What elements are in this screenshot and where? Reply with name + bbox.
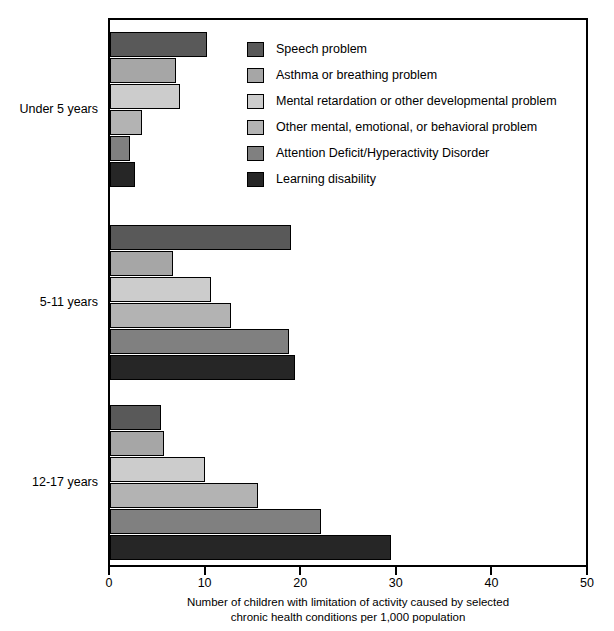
bar <box>110 84 180 109</box>
legend: Speech problemAsthma or breathing proble… <box>247 36 577 192</box>
x-axis-title: Number of children with limitation of ac… <box>108 595 588 625</box>
legend-item-label: Mental retardation or other developmenta… <box>276 94 557 108</box>
bar <box>110 136 130 161</box>
legend-swatch-icon <box>247 42 264 57</box>
bar <box>110 225 291 250</box>
legend-item-label: Attention Deficit/Hyperactivity Disorder <box>276 146 489 160</box>
y-axis-group-labels: Under 5 years5-11 years12-17 years <box>0 0 104 631</box>
x-axis-title-line-1: Number of children with limitation of ac… <box>108 595 588 610</box>
bar <box>110 457 205 482</box>
bar <box>110 162 135 187</box>
bar <box>110 329 289 354</box>
x-axis-tick <box>586 567 588 575</box>
legend-swatch-icon <box>247 146 264 161</box>
x-axis-tick-label: 30 <box>389 576 403 590</box>
legend-item-label: Asthma or breathing problem <box>276 68 437 82</box>
bar <box>110 405 161 430</box>
legend-item: Other mental, emotional, or behavioral p… <box>247 114 577 140</box>
legend-item-label: Other mental, emotional, or behavioral p… <box>276 120 537 134</box>
x-axis-tick-label: 0 <box>106 576 113 590</box>
clipped-title-fragment <box>93 0 353 1</box>
x-axis-tick-label: 40 <box>484 576 498 590</box>
legend-item: Attention Deficit/Hyperactivity Disorder <box>247 140 577 166</box>
legend-item: Speech problem <box>247 36 577 62</box>
bar <box>110 277 211 302</box>
bar <box>110 32 207 57</box>
y-axis-group-label: 12-17 years <box>32 475 98 489</box>
legend-swatch-icon <box>247 120 264 135</box>
bar <box>110 251 173 276</box>
bar <box>110 58 176 83</box>
x-axis-title-line-2: chronic health conditions per 1,000 popu… <box>108 610 588 625</box>
bar <box>110 110 142 135</box>
bar <box>110 483 258 508</box>
x-axis-tick <box>395 567 397 575</box>
x-axis-tick <box>490 567 492 575</box>
x-axis-tick-label: 20 <box>293 576 307 590</box>
x-axis-tick-label: 50 <box>580 576 594 590</box>
x-axis-tick <box>108 567 110 575</box>
x-axis-tick-label: 10 <box>198 576 212 590</box>
bar-chart: Under 5 years5-11 years12-17 years 01020… <box>0 0 614 631</box>
legend-swatch-icon <box>247 94 264 109</box>
legend-item-label: Learning disability <box>276 172 376 186</box>
legend-item: Mental retardation or other developmenta… <box>247 88 577 114</box>
bar <box>110 431 164 456</box>
legend-swatch-icon <box>247 172 264 187</box>
bar <box>110 509 321 534</box>
bar <box>110 535 391 560</box>
x-axis-tick <box>204 567 206 575</box>
legend-item: Asthma or breathing problem <box>247 62 577 88</box>
bar <box>110 355 295 380</box>
legend-swatch-icon <box>247 68 264 83</box>
legend-item: Learning disability <box>247 166 577 192</box>
y-axis-group-label: 5-11 years <box>40 295 98 309</box>
x-axis-tick <box>299 567 301 575</box>
bar <box>110 303 231 328</box>
y-axis-group-label: Under 5 years <box>19 102 98 116</box>
legend-item-label: Speech problem <box>276 42 367 56</box>
